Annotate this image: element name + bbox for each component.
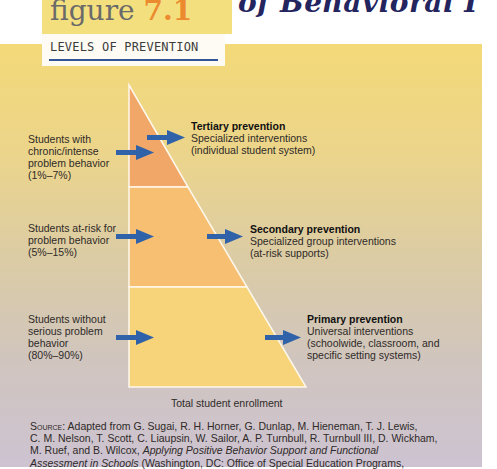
text-line: Universal interventions xyxy=(307,325,439,337)
prevention-title: Tertiary prevention xyxy=(191,120,285,132)
book-title: Applying Positive Behavior Support and F… xyxy=(143,444,379,456)
text-line: (Washington, DC: Office of Special Educa… xyxy=(139,457,405,469)
text-line: (80%–90%) xyxy=(28,349,106,361)
text-line: (1%–7%) xyxy=(28,169,109,181)
text-line: problem behavior xyxy=(28,157,109,169)
text-line: (schoolwide, classroom, and xyxy=(307,337,439,349)
source-citation: Source: Adapted from G. Sugai, R. H. Hor… xyxy=(30,420,480,469)
text-line: chronic/intense xyxy=(28,145,109,157)
text-line: M. Ruef, and B. Wilcox, xyxy=(30,444,143,456)
prevention-title: Primary prevention xyxy=(307,313,403,325)
text-line: Students without xyxy=(28,313,106,325)
text-line: C. M. Nelson, T. Scott, C. Liaupsin, W. … xyxy=(30,432,480,444)
book-title: Assessment in Schools xyxy=(30,457,139,469)
prevention-title: Secondary prevention xyxy=(250,223,360,235)
text-line: Adapted from G. Sugai, R. H. Horner, G. … xyxy=(68,420,418,432)
text-line: (individual student system) xyxy=(191,144,315,156)
text-line: problem behavior xyxy=(28,234,116,246)
prevention-tertiary: Tertiary prevention Specialized interven… xyxy=(191,120,315,156)
students-primary: Students without serious problem behavio… xyxy=(28,313,106,361)
students-secondary: Students at-risk for problem behavior (5… xyxy=(28,222,116,258)
text-line: Specialized interventions xyxy=(191,132,315,144)
text-line: specific setting systems) xyxy=(307,349,439,361)
axis-label: Total student enrollment xyxy=(171,397,282,409)
text-line: behavior xyxy=(28,337,106,349)
text-line: (at-risk supports) xyxy=(250,247,396,259)
text-line: (5%–15%) xyxy=(28,246,116,258)
text-line: Students with xyxy=(28,133,109,145)
text-line: Specialized group interventions xyxy=(250,235,396,247)
source-label: Source: xyxy=(30,420,65,432)
prevention-primary: Primary prevention Universal interventio… xyxy=(307,313,439,361)
text-line: serious problem xyxy=(28,325,106,337)
students-tertiary: Students with chronic/intense problem be… xyxy=(28,133,109,181)
text-line: Students at-risk for xyxy=(28,222,116,234)
prevention-secondary: Secondary prevention Specialized group i… xyxy=(250,223,396,259)
